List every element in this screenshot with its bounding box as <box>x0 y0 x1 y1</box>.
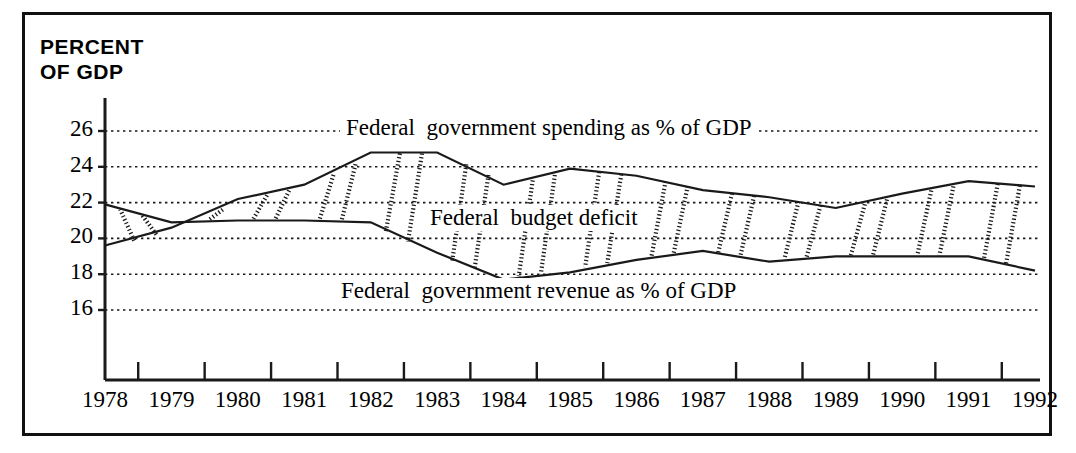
x-tick-label: 1980 <box>206 387 270 413</box>
series-label-spending: Federal government spending as % of GDP <box>340 115 758 141</box>
x-tick-label: 1989 <box>804 387 868 413</box>
x-tick-label: 1992 <box>1003 387 1067 413</box>
series-label-revenue: Federal government revenue as % of GDP <box>335 278 742 304</box>
x-tick-label: 1981 <box>272 387 336 413</box>
x-tick-label: 1985 <box>538 387 602 413</box>
x-tick-marks <box>138 362 1002 380</box>
x-tick-label: 1990 <box>870 387 934 413</box>
x-tick-label: 1988 <box>737 387 801 413</box>
x-tick-label: 1979 <box>139 387 203 413</box>
x-tick-label: 1986 <box>604 387 668 413</box>
y-tick-label: 24 <box>49 152 93 178</box>
x-tick-label: 1978 <box>73 387 137 413</box>
y-tick-label: 22 <box>49 188 93 214</box>
y-tick-label: 18 <box>49 259 93 285</box>
chart-figure: PERCENT OF GDP 161820222426 197819791980… <box>0 0 1076 453</box>
series-label-deficit: Federal budget deficit <box>424 205 644 231</box>
x-tick-label: 1987 <box>671 387 735 413</box>
x-tick-label: 1982 <box>339 387 403 413</box>
x-tick-label: 1991 <box>937 387 1001 413</box>
x-tick-label: 1983 <box>405 387 469 413</box>
y-tick-label: 16 <box>49 295 93 321</box>
y-tick-label: 26 <box>49 116 93 142</box>
y-tick-label: 20 <box>49 223 93 249</box>
x-tick-label: 1984 <box>472 387 536 413</box>
